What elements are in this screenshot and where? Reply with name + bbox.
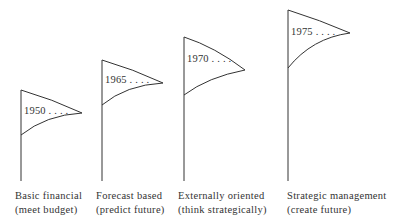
- pennant-icon: [288, 10, 350, 68]
- year-1965: 1965 . . . .: [105, 75, 149, 86]
- year-1950: 1950 . . . .: [24, 106, 68, 117]
- stage-subtitle: (create future): [287, 203, 387, 217]
- stage-subtitle: (predict future): [96, 203, 165, 217]
- pennant-icon: [184, 37, 245, 95]
- stage-label-basic-financial: Basic financial (meet budget): [15, 189, 82, 217]
- year-1970: 1970 . . . .: [187, 54, 231, 65]
- stage-label-externally-oriented: Externally oriented (think strategically…: [178, 189, 267, 217]
- flag-1950: [21, 90, 82, 181]
- stage-title: Forecast based: [96, 189, 165, 203]
- stage-title: Strategic management: [287, 189, 387, 203]
- stage-title: Externally oriented: [178, 189, 267, 203]
- stage-title: Basic financial: [15, 189, 82, 203]
- stage-label-strategic-management: Strategic management (create future): [287, 189, 387, 217]
- stage-subtitle: (meet budget): [15, 203, 82, 217]
- year-1975: 1975 . . . .: [291, 27, 335, 38]
- stage-subtitle: (think strategically): [178, 203, 267, 217]
- stage-label-forecast-based: Forecast based (predict future): [96, 189, 165, 217]
